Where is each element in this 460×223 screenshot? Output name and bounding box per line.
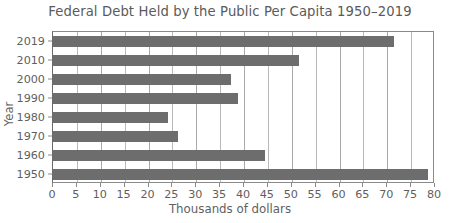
y-tick-label-1950: 1950 [17, 167, 45, 180]
x-tick-mark [339, 183, 340, 187]
x-tick-label-0: 0 [48, 188, 55, 201]
x-tick-mark [219, 183, 220, 187]
y-tick-label-2010: 2010 [17, 53, 45, 66]
bar-2010 [53, 55, 299, 67]
x-tick-label-5: 5 [72, 188, 79, 201]
y-tick-label-2019: 2019 [17, 34, 45, 47]
bar-row [53, 36, 433, 48]
x-tick-mark [386, 183, 387, 187]
x-tick-mark [267, 183, 268, 187]
x-tick-label-60: 60 [331, 188, 345, 201]
x-axis-label: Thousands of dollars [0, 202, 460, 216]
bar-row [53, 112, 433, 124]
x-tick-label-80: 80 [427, 188, 441, 201]
x-tick-label-75: 75 [403, 188, 417, 201]
x-tick-mark [52, 183, 53, 187]
x-tick-label-25: 25 [164, 188, 178, 201]
bar-row [53, 169, 433, 181]
y-tick-label-1980: 1980 [17, 110, 45, 123]
bar-series [53, 32, 433, 182]
bar-row [53, 93, 433, 105]
x-tick-mark [195, 183, 196, 187]
x-tick-mark [76, 183, 77, 187]
y-tick-label-2000: 2000 [17, 72, 45, 85]
x-tick-label-45: 45 [260, 188, 274, 201]
bar-1960 [53, 150, 265, 162]
x-tick-label-30: 30 [188, 188, 202, 201]
x-tick-label-35: 35 [212, 188, 226, 201]
bar-2019 [53, 36, 394, 48]
bar-1980 [53, 112, 168, 124]
x-tick-mark [148, 183, 149, 187]
x-tick-mark [410, 183, 411, 187]
bar-2000 [53, 74, 231, 86]
bar-chart: Federal Debt Held by the Public Per Capi… [0, 0, 460, 223]
x-tick-mark [124, 183, 125, 187]
bar-row [53, 150, 433, 162]
x-tick-mark [100, 183, 101, 187]
x-tick-label-15: 15 [117, 188, 131, 201]
bar-row [53, 131, 433, 143]
x-tick-label-50: 50 [284, 188, 298, 201]
x-tick-label-10: 10 [93, 188, 107, 201]
x-tick-mark [315, 183, 316, 187]
x-tick-mark [362, 183, 363, 187]
x-tick-label-65: 65 [355, 188, 369, 201]
y-tick-label-1960: 1960 [17, 148, 45, 161]
y-tick-label-1990: 1990 [17, 91, 45, 104]
x-tick-label-20: 20 [140, 188, 154, 201]
x-tick-mark [434, 183, 435, 187]
bar-1990 [53, 93, 238, 105]
x-tick-label-70: 70 [379, 188, 393, 201]
plot-area [52, 31, 434, 183]
x-tick-label-55: 55 [308, 188, 322, 201]
bar-row [53, 74, 433, 86]
bar-1950 [53, 169, 428, 181]
bar-row [53, 55, 433, 67]
bar-1970 [53, 131, 178, 143]
x-tick-mark [243, 183, 244, 187]
y-axis-label: Year [2, 84, 16, 144]
chart-title: Federal Debt Held by the Public Per Capi… [0, 4, 460, 19]
x-tick-mark [291, 183, 292, 187]
x-tick-mark [171, 183, 172, 187]
x-tick-label-40: 40 [236, 188, 250, 201]
y-tick-label-1970: 1970 [17, 129, 45, 142]
